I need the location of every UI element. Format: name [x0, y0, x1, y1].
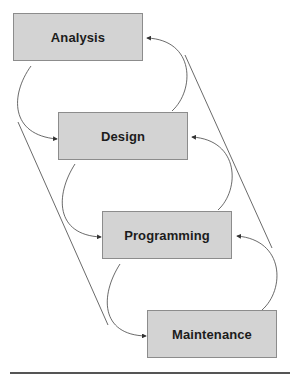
stage-label: Programming — [124, 228, 210, 243]
stage-label: Analysis — [51, 30, 105, 45]
stage-label: Design — [101, 129, 145, 144]
arrow-programming-to-maintenance — [107, 264, 146, 336]
arrow-programming-to-design — [192, 137, 232, 210]
stage-design: Design — [58, 112, 188, 160]
stage-analysis: Analysis — [13, 13, 143, 61]
arrow-design-to-programming — [62, 164, 101, 237]
arrow-analysis-to-design — [18, 66, 57, 139]
arrow-maintenance-to-programming — [237, 236, 277, 310]
stage-maintenance: Maintenance — [147, 310, 277, 358]
arrow-design-to-analysis — [147, 38, 187, 111]
bottom-divider — [10, 372, 290, 374]
stage-programming: Programming — [102, 211, 232, 259]
stage-label: Maintenance — [172, 327, 252, 342]
